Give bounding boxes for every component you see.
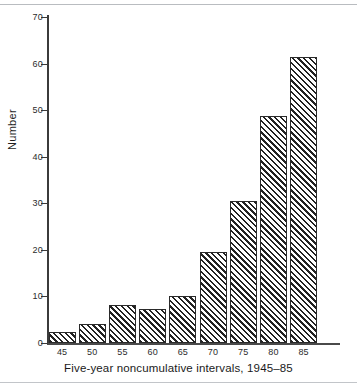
- bar-45: [49, 332, 76, 343]
- x-tick-label: 45: [47, 347, 77, 357]
- x-tick-label: 60: [138, 347, 168, 357]
- bar-slot: [228, 17, 258, 343]
- x-tick-label: 80: [258, 347, 288, 357]
- bar-75: [230, 201, 257, 344]
- x-tick-label: 70: [198, 347, 228, 357]
- bar-60: [139, 309, 166, 343]
- y-tick-label: 10: [33, 292, 43, 301]
- bar-85: [290, 57, 317, 343]
- x-tick-container: 455055606570758085: [47, 347, 337, 357]
- bar-55: [109, 305, 136, 343]
- y-tick-label: 50: [33, 106, 43, 115]
- x-axis-line: [47, 343, 340, 345]
- x-tick-label: 55: [107, 347, 137, 357]
- y-axis-title: Number: [6, 109, 18, 150]
- plot-area: 010203040506070: [47, 17, 337, 343]
- bar-slot: [47, 17, 77, 343]
- bar-65: [169, 296, 196, 343]
- x-tick-label: 65: [168, 347, 198, 357]
- bar-slot: [289, 17, 319, 343]
- bar-series: [47, 17, 337, 343]
- bar-chart-figure: Number 010203040506070 45505560657075808…: [0, 0, 357, 389]
- x-tick-label: 85: [289, 347, 319, 357]
- bar-50: [79, 324, 106, 343]
- x-tick-label: 50: [77, 347, 107, 357]
- y-tick-label: 60: [33, 59, 43, 68]
- y-tick-label: 30: [33, 199, 43, 208]
- bar-slot: [138, 17, 168, 343]
- y-tick-label: 20: [33, 245, 43, 254]
- y-tick-label: 40: [33, 152, 43, 161]
- bar-slot: [77, 17, 107, 343]
- bar-80: [260, 116, 287, 343]
- bar-slot: [168, 17, 198, 343]
- y-tick-label: 0: [38, 339, 43, 348]
- x-tick-label: 75: [228, 347, 258, 357]
- bar-slot: [107, 17, 137, 343]
- bar-70: [200, 252, 227, 343]
- bar-slot: [198, 17, 228, 343]
- y-tick-label: 70: [33, 13, 43, 22]
- bar-slot: [258, 17, 288, 343]
- x-axis-title: Five-year noncumulative intervals, 1945–…: [0, 362, 357, 374]
